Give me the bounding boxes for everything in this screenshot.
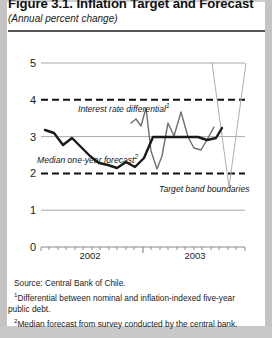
chart-svg <box>0 36 272 262</box>
annotation-target-band-boundaries: Target band boundaries <box>159 184 249 194</box>
annotation-median-one-year-forecast: Median one-year forecast2 <box>37 153 138 165</box>
header-rule <box>8 30 265 32</box>
annotation-interest-rate-differential: Interest rate differential1 <box>78 102 169 114</box>
annotation-interest-rate-differential-marker: 1 <box>166 102 170 109</box>
annotation-median-one-year-forecast-marker: 2 <box>134 153 138 160</box>
y-tick-label-1: 1 <box>22 204 36 216</box>
y-tick-label-0: 0 <box>22 241 36 253</box>
figure-title: Figure 3.1. Inflation Target and Forecas… <box>8 0 266 11</box>
note-footnote-2: 2Median forecast from survey conducted b… <box>8 315 264 330</box>
note-footnote-1-first-line: 1Differential between nominal and inflat… <box>8 289 264 304</box>
figure-notes: Source: Central Bank of Chile. 1Differen… <box>8 278 264 330</box>
note-footnote-2-text: Median forecast from survey conducted by… <box>17 319 237 329</box>
y-tick-label-3: 3 <box>22 131 36 143</box>
y-tick-label-5: 5 <box>22 57 36 69</box>
band-guide-left <box>212 63 229 187</box>
annotation-median-one-year-forecast-text: Median one-year forecast <box>37 155 134 165</box>
figure-container: Figure 3.1. Inflation Target and Forecas… <box>0 0 272 338</box>
x-tick-label-2002: 2002 <box>70 250 110 261</box>
note-footnote-1-text-a: Differential between nominal and inflati… <box>17 293 235 303</box>
band-guide-right <box>229 63 246 187</box>
y-tick-label-4: 4 <box>22 94 36 106</box>
annotation-interest-rate-differential-text: Interest rate differential <box>78 104 166 114</box>
figure-subtitle: (Annual percent change) <box>8 13 118 24</box>
note-source: Source: Central Bank of Chile. <box>8 278 264 289</box>
y-tick-label-2: 2 <box>22 167 36 179</box>
chart-plot-area: 5 4 3 2 1 0 <box>0 36 272 262</box>
note-footnote-1-second-line: public debt. <box>8 304 264 315</box>
x-tick-label-2003: 2003 <box>175 250 215 261</box>
